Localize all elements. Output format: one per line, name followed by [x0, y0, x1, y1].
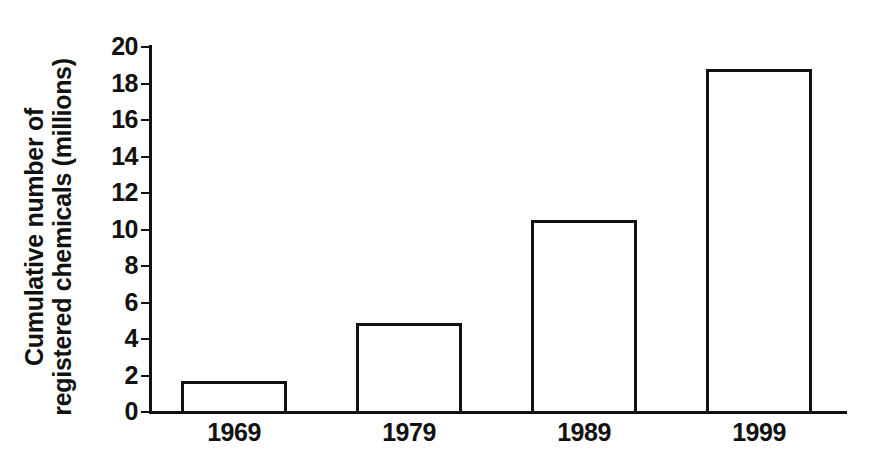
- y-tick-mark: [141, 265, 150, 267]
- y-tick-mark: [141, 338, 150, 340]
- y-tick-mark: [141, 119, 150, 121]
- y-tick-mark: [141, 411, 150, 413]
- y-tick-label: 8: [78, 253, 138, 278]
- bar-1979: [356, 323, 462, 414]
- y-tick-label: 18: [78, 71, 138, 96]
- y-tick-label: 10: [78, 217, 138, 242]
- y-tick-label: 6: [78, 290, 138, 315]
- y-tick-label: 4: [78, 326, 138, 351]
- y-tick-mark: [141, 156, 150, 158]
- x-tick-label-1969: 1969: [181, 420, 287, 445]
- x-tick-label-1979: 1979: [356, 420, 462, 445]
- y-tick-mark: [141, 46, 150, 48]
- y-tick-mark: [141, 302, 150, 304]
- x-tick-label-1999: 1999: [706, 420, 812, 445]
- bar-1999: [706, 69, 812, 414]
- bar-chart-figure: Cumulative number of registered chemical…: [0, 0, 875, 474]
- y-tick-label: 12: [78, 180, 138, 205]
- y-tick-label: 2: [78, 363, 138, 388]
- y-tick-mark: [141, 229, 150, 231]
- y-tick-mark: [141, 83, 150, 85]
- y-tick-label: 0: [78, 399, 138, 424]
- bar-1989: [531, 220, 637, 414]
- y-tick-mark: [141, 375, 150, 377]
- x-tick-label-1989: 1989: [531, 420, 637, 445]
- y-tick-label: 20: [78, 34, 138, 59]
- bar-1969: [181, 381, 287, 414]
- y-tick-label: 14: [78, 144, 138, 169]
- y-tick-mark: [141, 192, 150, 194]
- plot-area: 02468101214161820 1969197919891999: [0, 0, 875, 474]
- y-tick-label: 16: [78, 107, 138, 132]
